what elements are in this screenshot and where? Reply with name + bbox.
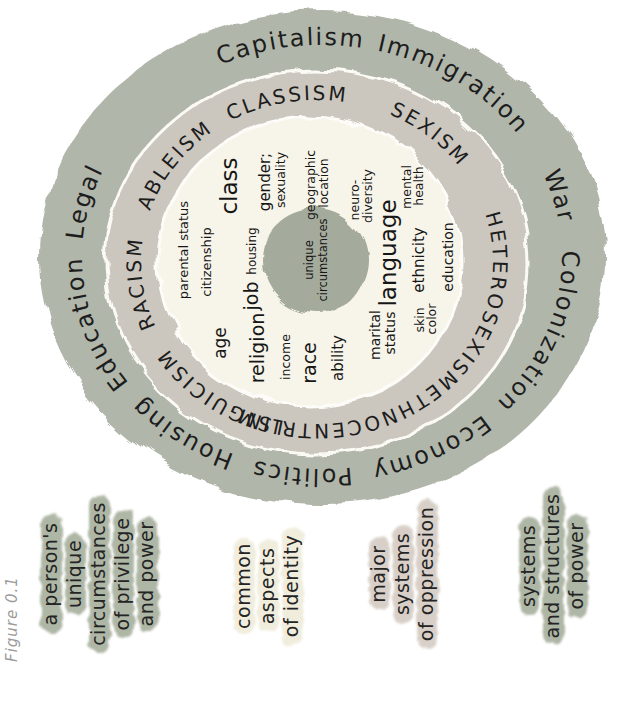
legend-line: major (367, 545, 389, 602)
legend-line: and power (135, 521, 157, 626)
identity-diversity: diversity (360, 168, 375, 223)
identity-age: age (210, 327, 230, 359)
identity-education: education (440, 222, 456, 291)
legend-systems-structures-of-power: systems and structures of power (517, 487, 588, 645)
identity-ability: ability (329, 335, 347, 381)
figure-svg: Figure 0.1 a person's unique circumstanc… (0, 0, 621, 704)
legend-line: of privilege (111, 518, 133, 631)
center-label-unique: unique (302, 240, 316, 279)
identity-class: class (216, 157, 242, 214)
identity-housing: housing (245, 227, 259, 274)
identity-status: status (382, 311, 398, 354)
legend-line: of identity (280, 535, 302, 637)
identity-income: income (278, 334, 293, 380)
legend-line: of oppression (415, 507, 437, 641)
identity-ethnicity: ethnicity (410, 227, 428, 293)
legend-line: unique (63, 540, 85, 608)
legend-line: aspects (256, 548, 278, 625)
identity-health: health (411, 166, 426, 206)
legend-unique-circumstances: a person's unique circumstances of privi… (39, 495, 158, 653)
scanned-figure-page: Figure 0.1 a person's unique circumstanc… (0, 0, 621, 704)
power-privilege-wheel: Education Legal Capitalism Immigration W… (39, 10, 605, 504)
identity-religion: religion (246, 313, 268, 384)
legend-line: systems (517, 525, 539, 607)
legend-major-systems-of-oppression: major systems of oppression (367, 499, 438, 649)
identity-marital: marital (367, 310, 383, 360)
identity-color: color (424, 303, 439, 335)
legend-line: circumstances (87, 502, 109, 646)
legend-line: systems (391, 533, 413, 615)
identity-parental-status: parental status (176, 201, 191, 299)
rotated-figure-group: Figure 0.1 a person's unique circumstanc… (3, 10, 605, 662)
identity-location: location (316, 158, 331, 208)
identity-language: language (375, 199, 401, 306)
identity-citizenship: citizenship (199, 227, 214, 296)
legend-line: of power (565, 522, 587, 609)
legend-line: and structures (541, 494, 563, 639)
identity-job: job (240, 282, 262, 312)
legend-line: a person's (39, 523, 61, 626)
figure-caption: Figure 0.1 (3, 576, 21, 662)
legend-line: common (232, 543, 254, 629)
center-label-circumstances: circumstances (316, 218, 330, 301)
legend-common-aspects-of-identity: common aspects of identity (232, 527, 303, 645)
identity-gender: gender; (256, 153, 274, 211)
identity-sexuality: sexuality (273, 151, 288, 208)
identity-race: race (298, 342, 320, 384)
